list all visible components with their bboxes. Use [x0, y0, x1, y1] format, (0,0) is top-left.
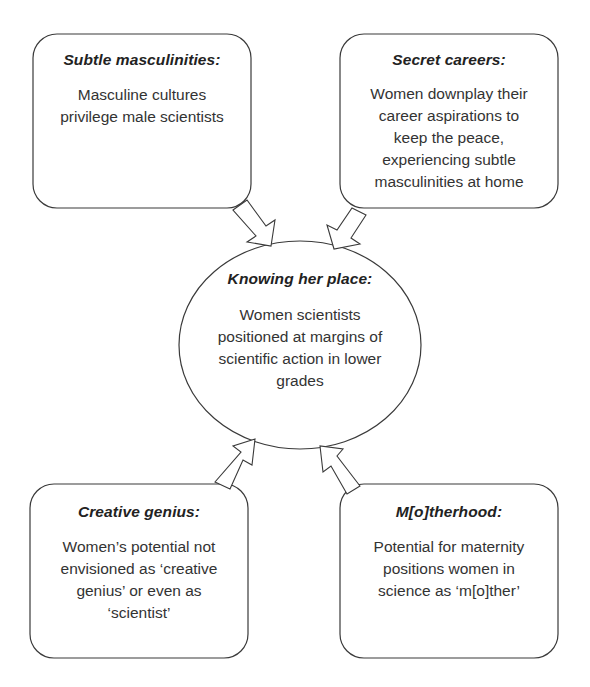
text-line: science as ‘m[o]ther’ [356, 580, 542, 602]
node-text: Potential for maternity positions women … [340, 536, 558, 602]
text-line: Potential for maternity [356, 536, 542, 558]
text-line: Women scientists [202, 304, 398, 326]
node-title: Secret careers: [340, 51, 558, 69]
text-line: genius’ or even as [44, 580, 234, 602]
node-text: Women downplay their career aspirations … [340, 83, 558, 193]
text-line: envisioned as ‘creative [44, 558, 234, 580]
node-title: Creative genius: [30, 503, 248, 521]
center-text: Women scientists positioned at margins o… [180, 304, 420, 392]
text-line: Masculine cultures [47, 84, 237, 106]
node-creative-genius: Creative genius: Women’s potential not e… [30, 484, 248, 658]
text-line: positions women in [356, 558, 542, 580]
center-node-knowing-her-place: Knowing her place: Women scientists posi… [180, 242, 420, 448]
text-line: keep the peace, [352, 127, 546, 149]
node-title: M[o]therhood: [340, 503, 558, 521]
node-title: Subtle masculinities: [33, 51, 251, 69]
text-line: scientific action in lower [202, 348, 398, 370]
node-secret-careers: Secret careers: Women downplay their car… [340, 34, 558, 208]
node-subtle-masculinities: Subtle masculinities: Masculine cultures… [33, 34, 251, 208]
text-line: Women’s potential not [44, 536, 234, 558]
node-text: Women’s potential not envisioned as ‘cre… [30, 536, 248, 624]
text-line: ‘scientist’ [44, 602, 234, 624]
node-text: Masculine cultures privilege male scient… [33, 84, 251, 128]
text-line: grades [202, 370, 398, 392]
text-line: privilege male scientists [47, 106, 237, 128]
text-line: career aspirations to [352, 105, 546, 127]
center-title: Knowing her place: [180, 270, 420, 288]
text-line: Women downplay their [352, 83, 546, 105]
node-motherhood: M[o]therhood: Potential for maternity po… [340, 484, 558, 658]
text-line: masculinities at home [352, 171, 546, 193]
text-line: experiencing subtle [352, 149, 546, 171]
text-line: positioned at margins of [202, 326, 398, 348]
